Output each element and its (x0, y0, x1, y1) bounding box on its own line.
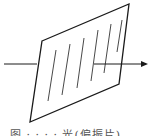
arrowhead-icon (141, 61, 148, 67)
polarizer-slits (48, 20, 122, 101)
slit-line (48, 50, 56, 101)
slit-line (62, 44, 70, 95)
slit-line (91, 30, 98, 81)
slit-line (117, 20, 122, 52)
slit-line (104, 24, 111, 73)
figure-caption: 图 · · · · 光(偏振片) (10, 126, 121, 136)
polarizer-diagram (0, 0, 152, 136)
slit-line (77, 38, 84, 88)
polarizer-plate (30, 4, 129, 122)
